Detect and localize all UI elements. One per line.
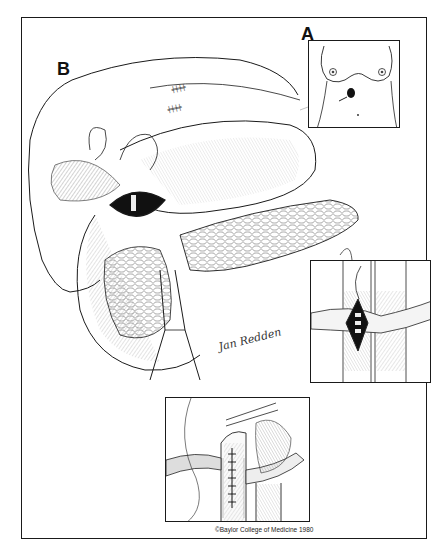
panel-b-label: B [57,60,70,78]
panel-a-inset [308,40,400,128]
opened-vessel-illustration [311,261,431,383]
panel-c-inset [310,260,431,383]
torso-illustration [309,41,400,128]
panel-d-inset [165,397,310,522]
sutured-vessel-illustration [166,398,310,522]
copyright-caption: ©Baylor College of Medicine 1980 [215,526,313,533]
svg-text:╪╪╪╪: ╪╪╪╪ [166,103,183,114]
